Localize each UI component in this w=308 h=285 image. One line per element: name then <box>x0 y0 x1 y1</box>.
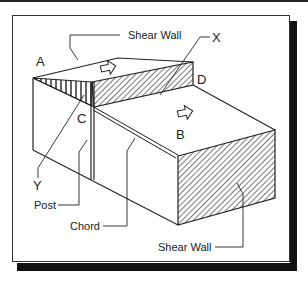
leader-shear-wall-top <box>70 35 120 60</box>
label-post: Post <box>34 199 56 211</box>
label-shear-wall-top: Shear Wall <box>128 29 181 41</box>
leader-y <box>38 95 84 178</box>
lower-shear-wall-face <box>178 130 275 225</box>
label-a: A <box>36 54 45 69</box>
label-c: C <box>77 111 86 126</box>
label-b: B <box>176 127 185 142</box>
chord-line <box>92 106 178 155</box>
label-chord: Chord <box>70 220 100 232</box>
label-shear-wall-bottom: Shear Wall <box>158 241 211 253</box>
lower-block-bottom-edge <box>33 150 178 225</box>
shear-wall-diagram: Shear Wall X A D C B Y Post Chord Shear … <box>0 0 308 285</box>
vertical-hatched-triangle <box>33 78 92 106</box>
load-arrow-lower-icon <box>177 104 195 121</box>
leader-post <box>58 140 87 205</box>
lower-block-top-edge <box>193 85 275 130</box>
leader-chord <box>103 138 135 226</box>
chord-line-2 <box>93 110 176 158</box>
label-y: Y <box>33 178 42 193</box>
label-x: X <box>212 30 221 45</box>
label-d: D <box>197 72 206 87</box>
